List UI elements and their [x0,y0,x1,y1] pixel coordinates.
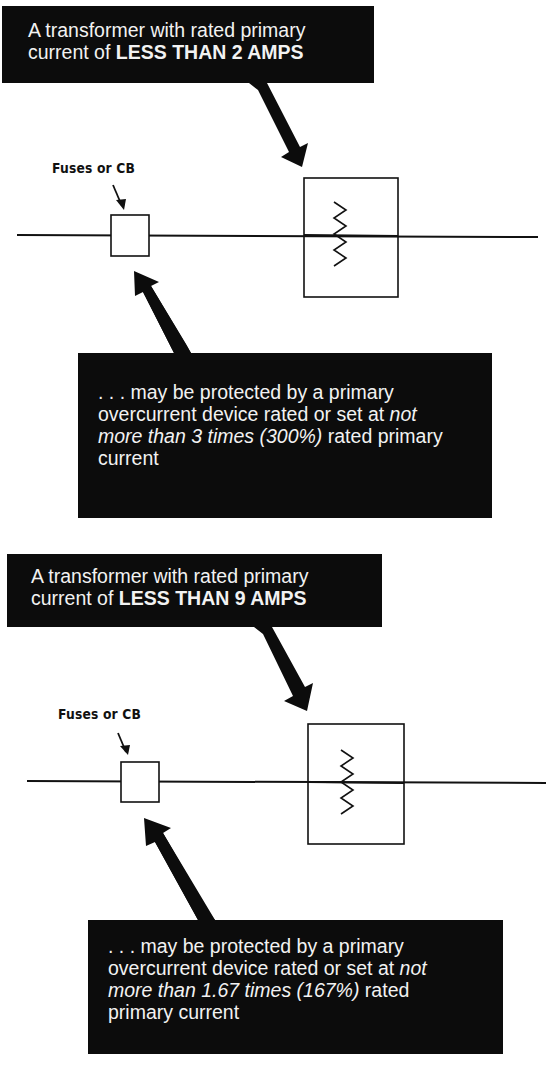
callout-line: current [98,447,492,469]
transformer-box [304,178,398,297]
callout-line: current of LESS THAN 9 AMPS [31,587,382,609]
callout-text: rated [359,979,409,1001]
circuit-2 [27,627,546,920]
callout-line: overcurrent device rated or set at not [108,957,503,979]
transformer-box [308,724,404,844]
fuse-cb-box [121,762,159,802]
arrow-to-transformer-icon [249,83,308,167]
fuses-or-cb-label: Fuses or CB [58,706,141,722]
callout-line: A transformer with rated primary [28,19,374,41]
callout-line: primary current [108,1001,503,1023]
transformer-condition-callout-1: A transformer with rated primary current… [2,6,374,83]
arrow-to-transformer-icon [254,627,313,711]
callout-line: A transformer with rated primary [31,565,382,587]
callout-text: current of [28,41,116,63]
rating-limit: more than 3 times (300%) [98,425,322,447]
label-pointer-icon [120,745,130,755]
protection-rule-callout-2: . . . may be protected by a primary over… [88,920,503,1054]
label-pointer-icon [116,199,126,210]
rating-limit: more than 1.67 times (167%) [108,979,359,1001]
diagram-canvas: A transformer with rated primary current… [0,0,554,1069]
callout-line: overcurrent device rated or set at not [98,403,492,425]
transformer-condition-callout-2: A transformer with rated primary current… [7,554,382,627]
callout-text: overcurrent device rated or set at [98,403,390,425]
callout-emphasis: not [390,403,417,425]
fuses-or-cb-label: Fuses or CB [52,160,135,176]
callout-line: . . . may be protected by a primary [98,381,492,403]
callout-line: . . . may be protected by a primary [108,935,503,957]
transformer-coil-icon [334,202,346,266]
current-threshold: LESS THAN 2 AMPS [116,41,304,63]
callout-emphasis: not [400,957,427,979]
callout-text: current of [31,587,119,609]
callout-line: current of LESS THAN 2 AMPS [28,41,374,63]
fuse-cb-box [111,215,149,256]
callout-text: overcurrent device rated or set at [108,957,400,979]
protection-rule-callout-1: . . . may be protected by a primary over… [78,353,492,518]
callout-line: more than 3 times (300%) rated primary [98,425,492,447]
current-threshold: LESS THAN 9 AMPS [119,587,307,609]
circuit-1 [17,83,538,353]
conductor-line [27,781,546,783]
conductor-line [17,235,538,237]
callout-line: more than 1.67 times (167%) rated [108,979,503,1001]
callout-text: rated primary [322,425,442,447]
